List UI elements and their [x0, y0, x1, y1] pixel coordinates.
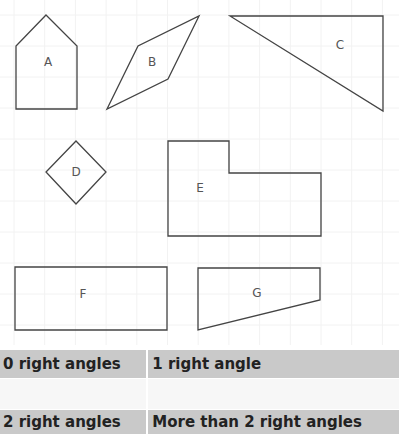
answer-row: [0, 379, 399, 409]
shape-d-label: D: [71, 165, 80, 179]
answer-cell-0-right-angles[interactable]: [0, 379, 146, 409]
shape-c[interactable]: C: [230, 16, 383, 111]
header-1-right-angle: 1 right angle: [148, 350, 399, 378]
shape-f-outline: [15, 267, 167, 330]
header-2-right-angles: 2 right angles: [0, 410, 146, 434]
answer-cell-1-right-angle[interactable]: [148, 379, 399, 409]
shape-f-label: F: [80, 287, 87, 301]
shape-b-label: B: [148, 55, 156, 69]
shape-g-label: G: [252, 286, 261, 300]
shape-d[interactable]: D: [46, 141, 106, 204]
shape-c-label: C: [336, 38, 344, 52]
shapes-canvas: ABCDEFG: [0, 0, 399, 345]
shape-e-label: E: [196, 181, 204, 195]
header-0-right-angles: 0 right angles: [0, 350, 146, 378]
background-grid: [0, 0, 399, 345]
shape-f[interactable]: F: [15, 267, 167, 330]
shape-e-outline: [168, 141, 321, 236]
header-more-than-2-right-angles: More than 2 right angles: [148, 410, 399, 434]
sorting-table: 0 right angles 1 right angle 2 right ang…: [0, 350, 399, 434]
shape-e[interactable]: E: [168, 141, 321, 236]
table-header-row: 2 right angles More than 2 right angles: [0, 410, 399, 434]
shape-g[interactable]: G: [198, 268, 320, 330]
shape-a[interactable]: A: [16, 15, 77, 109]
shape-c-outline: [230, 16, 383, 111]
shape-a-label: A: [44, 55, 53, 69]
table-header-row: 0 right angles 1 right angle: [0, 350, 399, 378]
shape-b[interactable]: B: [107, 16, 199, 109]
